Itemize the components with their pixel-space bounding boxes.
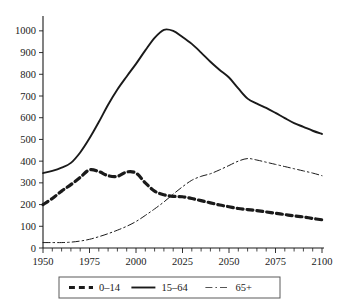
x-tick-label: 2100 bbox=[312, 256, 333, 267]
y-tick-label: 200 bbox=[20, 199, 36, 210]
x-tick-label: 1950 bbox=[33, 256, 54, 267]
chart-canvas: 01002003004005006007008009001000 1950197… bbox=[0, 0, 337, 303]
y-tick-label: 600 bbox=[20, 112, 36, 123]
y-tick-label: 300 bbox=[20, 177, 36, 188]
y-tick-label: 900 bbox=[20, 47, 36, 58]
population-age-groups-chart: 01002003004005006007008009001000 1950197… bbox=[0, 0, 337, 303]
series-line-0-14 bbox=[43, 170, 322, 220]
legend-label-1: 15–64 bbox=[161, 282, 188, 293]
chart-legend: 0–1415–6465+ bbox=[59, 277, 280, 298]
x-tick-label: 2075 bbox=[265, 256, 286, 267]
x-tick-label: 1975 bbox=[79, 256, 100, 267]
y-tick-label: 800 bbox=[20, 69, 36, 80]
x-tick-label: 2050 bbox=[219, 256, 240, 267]
x-tick-label: 2000 bbox=[126, 256, 147, 267]
y-tick-label: 700 bbox=[20, 91, 36, 102]
y-tick-label: 0 bbox=[31, 243, 36, 254]
x-axis: 1950197520002025205020752100 bbox=[33, 248, 333, 267]
x-tick-label: 2025 bbox=[172, 256, 193, 267]
legend-label-2: 65+ bbox=[235, 282, 252, 293]
y-tick-label: 500 bbox=[20, 134, 36, 145]
legend-label-0: 0–14 bbox=[99, 282, 121, 293]
series-line-15-64 bbox=[43, 29, 322, 173]
data-series-group bbox=[43, 29, 322, 242]
y-tick-label: 1000 bbox=[15, 25, 36, 36]
y-tick-label: 400 bbox=[20, 156, 36, 167]
y-axis: 01002003004005006007008009001000 bbox=[15, 16, 43, 254]
y-tick-label: 100 bbox=[20, 221, 36, 232]
